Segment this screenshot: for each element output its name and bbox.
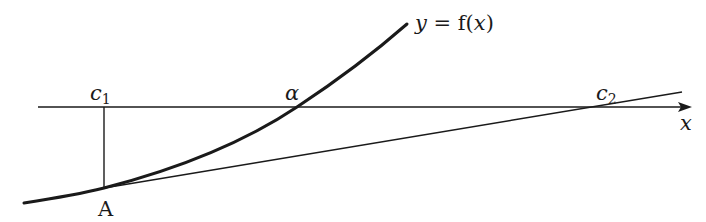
curve-label-close: ): [486, 11, 494, 35]
label-c2: c2: [596, 81, 617, 107]
label-alpha: α: [285, 81, 299, 105]
newton-raphson-diagram: y = f(x) c1 α c2 x A: [0, 0, 706, 222]
label-c2-base: c: [596, 81, 608, 105]
curve-f-of-x: [24, 24, 407, 203]
curve-label-f: f(: [458, 11, 474, 35]
label-point-A: A: [97, 197, 114, 221]
label-c1: c1: [90, 81, 111, 107]
curve-label: y = f(x): [414, 11, 494, 35]
label-x-axis: x: [680, 111, 692, 135]
curve-label-eq: =: [427, 11, 458, 35]
label-c1-sub: 1: [102, 91, 111, 107]
label-c2-sub: 2: [608, 91, 617, 107]
curve-label-x: x: [474, 11, 486, 35]
label-c1-base: c: [90, 81, 102, 105]
